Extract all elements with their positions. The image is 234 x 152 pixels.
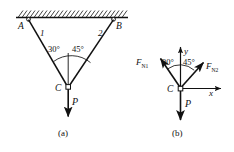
member-label-1: 1 bbox=[40, 29, 45, 38]
support-label-a: A bbox=[18, 22, 24, 32]
joint-label-c-b: C bbox=[167, 85, 173, 95]
angle-label-30-a: 30° bbox=[48, 45, 60, 54]
caption-panel-b: (b) bbox=[172, 129, 183, 138]
figure-root: A B 1 2 30° 45° C P (a) y x FN1 FN2 30° … bbox=[0, 0, 234, 152]
caption-panel-a: (a) bbox=[58, 129, 68, 138]
joint-label-c-a: C bbox=[55, 84, 61, 94]
load-label-p-a: P bbox=[72, 97, 78, 107]
angle-label-45-b: 45° bbox=[183, 58, 195, 67]
joint-marker-c-a bbox=[66, 85, 71, 90]
joint-marker-c-b bbox=[178, 86, 183, 91]
force-label-n1-sub: N1 bbox=[142, 63, 149, 69]
axis-x-label: x bbox=[209, 89, 213, 98]
fixed-ceiling-hatching bbox=[18, 11, 127, 18]
load-label-p-b: P bbox=[185, 99, 191, 109]
support-label-b: B bbox=[116, 22, 122, 32]
force-label-n1: FN1 bbox=[136, 58, 148, 69]
force-label-n2-sub: N2 bbox=[212, 67, 219, 73]
angle-label-30-b: 30° bbox=[162, 58, 174, 67]
force-label-n2: FN2 bbox=[206, 62, 218, 73]
axis-y-label: y bbox=[184, 47, 188, 56]
member-label-2: 2 bbox=[98, 29, 103, 38]
angle-label-45-a: 45° bbox=[72, 45, 84, 54]
